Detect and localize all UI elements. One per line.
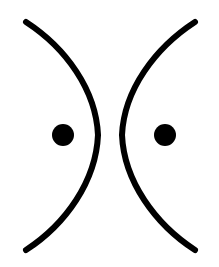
left-dot — [52, 124, 74, 146]
right-dot — [154, 124, 176, 146]
background-rect — [0, 0, 219, 267]
figure-svg — [0, 0, 219, 267]
figure-canvas — [0, 0, 219, 267]
